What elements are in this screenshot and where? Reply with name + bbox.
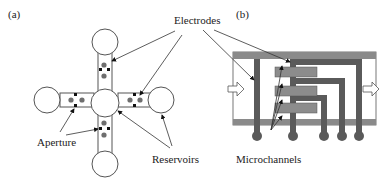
- reservoir-bottom: [92, 151, 118, 177]
- electrode-dot: [107, 127, 110, 130]
- electrode-trace: [290, 59, 362, 65]
- electrode-dot: [74, 104, 77, 107]
- particle: [137, 97, 142, 102]
- electrode-pad: [252, 131, 262, 141]
- microchannels-label: Microchannels: [236, 153, 301, 165]
- electrode-dot: [107, 68, 110, 71]
- particle: [101, 132, 106, 137]
- aperture-label: Aperture: [37, 136, 76, 148]
- microchannel: [275, 103, 317, 113]
- electrode-pad: [288, 131, 298, 141]
- particle: [79, 97, 84, 102]
- reservoir-center: [91, 89, 119, 117]
- electrode-trace: [321, 95, 327, 134]
- electrode-trace: [290, 78, 345, 84]
- electrode-dot: [99, 68, 102, 71]
- electrode-pads: [252, 131, 364, 141]
- reservoir-right: [148, 87, 174, 113]
- particle: [68, 97, 73, 102]
- leader-reservoirs-right: [162, 115, 172, 146]
- panel-b-label: (b): [236, 8, 249, 21]
- electrodes-label: Electrodes: [174, 14, 220, 26]
- microchannels: [275, 67, 317, 113]
- particle: [101, 73, 106, 78]
- electrode-dot: [133, 93, 136, 96]
- leader-electrodes-right: [140, 35, 182, 95]
- reservoirs-label: Reservoirs: [152, 153, 199, 165]
- electrode-pad: [354, 131, 364, 141]
- panel-b-chip: [228, 52, 379, 141]
- particle: [101, 120, 106, 125]
- leader-aperture-bottom: [66, 129, 98, 135]
- electrode-pad: [319, 131, 329, 141]
- diagram-canvas: (a) (b): [0, 0, 392, 185]
- leader-aperture-left: [60, 109, 74, 132]
- electrode-dot: [133, 104, 136, 107]
- electrode-pad: [337, 131, 347, 141]
- particle: [127, 97, 132, 102]
- electrode-dot: [74, 93, 77, 96]
- electrode-dot: [99, 127, 102, 130]
- panel-a-label: (a): [8, 8, 21, 21]
- electrode-trace: [254, 59, 260, 134]
- electrode-trace: [339, 78, 345, 134]
- leader-electrodes-top: [112, 31, 175, 61]
- top-band: [233, 52, 376, 59]
- reservoir-left: [34, 87, 60, 113]
- reservoir-top: [92, 29, 118, 55]
- electrode-trace: [356, 59, 362, 134]
- particle: [101, 62, 106, 67]
